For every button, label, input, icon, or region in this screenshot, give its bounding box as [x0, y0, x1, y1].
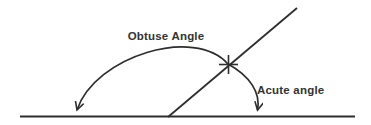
- obtuse-angle-label: Obtuse Angle: [128, 30, 205, 42]
- angle-diagram-canvas: Obtuse Angle Acute angle: [0, 0, 371, 125]
- acute-angle-arc: [228, 64, 258, 110]
- obtuse-angle-arc: [77, 47, 228, 110]
- angle-diagram: Obtuse Angle Acute angle: [0, 0, 371, 125]
- angle-ray-line: [168, 8, 297, 117]
- acute-angle-label: Acute angle: [257, 84, 324, 96]
